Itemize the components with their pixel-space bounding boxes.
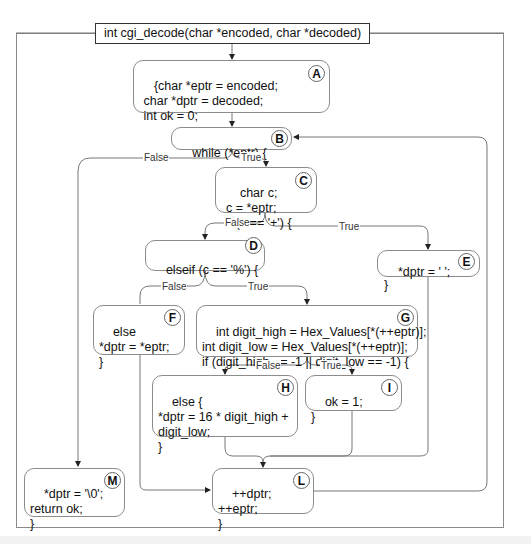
node-B-badge: B [271,130,288,147]
node-L-badge: L [293,472,310,489]
function-signature: int cgi_decode(char *encoded, char *deco… [95,23,370,44]
node-M: *dptr = '\0'; return ok; } M [24,468,125,517]
edge-label-D-G-true: True [247,281,269,292]
edge-label-C-E-true: True [338,221,360,232]
edge-label-B-C-true: True [240,152,262,163]
node-E-badge: E [458,253,475,270]
edge-label-C-D-false: False [224,217,250,228]
node-E: *dptr = ' '; } E [377,250,480,277]
node-D-code: elseif (c == '%') { [166,263,258,277]
node-D: elseif (c == '%') { D [145,240,265,271]
edge-label-B-M-false: False [143,152,169,163]
bottom-band [0,536,531,544]
node-C: char c; c = *eptr; if (c == '+') { C [215,167,317,213]
node-G-code: int digit_high = Hex_Values[*(++eptr)]; … [202,325,427,369]
edge-label-D-F-false: False [161,281,187,292]
node-L: ++dptr; ++eptr; } L [212,468,314,514]
control-flow-diagram: int cgi_decode(char *encoded, char *deco… [0,0,531,544]
node-G: int digit_high = Hex_Values[*(++eptr)]; … [196,305,418,357]
node-A-badge: A [308,65,325,82]
node-G-badge: G [397,309,414,326]
edge-label-G-I-true: True [320,360,342,371]
node-D-badge: D [245,237,262,254]
node-F: else *dptr = *eptr; } F [93,305,185,355]
node-H-badge: H [277,379,294,396]
node-I-badge: I [381,379,398,396]
edge-H-L [225,437,263,467]
node-H: else { *dptr = 16 * digit_high + digit_l… [152,375,298,437]
node-C-badge: C [295,172,312,189]
node-B: while (*eptr) { B [171,127,292,150]
edge-label-G-H-false: False [255,360,281,371]
node-I: ok = 1; } I [305,375,402,411]
node-M-badge: M [104,472,121,489]
node-F-badge: F [164,309,181,326]
node-A: {char *eptr = encoded; char *dptr = deco… [133,60,330,113]
